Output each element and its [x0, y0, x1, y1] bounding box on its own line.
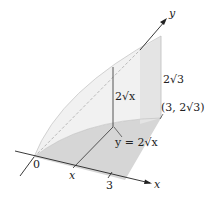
section-height-label: 2√x [115, 91, 135, 102]
x-axis-label: x [154, 179, 160, 190]
curve-equation-label: y = 2√x [115, 137, 158, 148]
tick-label-three: 3 [106, 180, 113, 191]
y-axis-lower [20, 157, 34, 176]
end-wall [140, 36, 161, 124]
y-axis-arrow [160, 18, 167, 25]
tick-label-x: x [69, 170, 75, 181]
origin-label: 0 [33, 159, 40, 170]
x-axis-arrow [144, 180, 152, 185]
y-axis-label: y [169, 8, 175, 19]
end-height-label: 2√3 [163, 74, 184, 85]
end-point-label: (3, 2√3) [161, 102, 205, 113]
